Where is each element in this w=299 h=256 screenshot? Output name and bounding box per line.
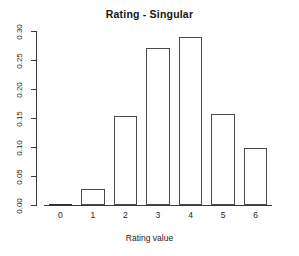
bar	[49, 204, 72, 206]
bar	[211, 114, 234, 205]
x-axis-tick-label: 3	[142, 211, 175, 220]
bar	[244, 148, 267, 205]
x-axis-tick-label: 0	[44, 211, 77, 220]
chart-canvas: Rating - Singular 0.300.250.200.150.100.…	[0, 0, 299, 256]
x-axis-tick-label: 5	[207, 211, 240, 220]
x-axis-title: Rating value	[0, 233, 299, 243]
x-axis-tick-label: 1	[77, 211, 110, 220]
bar	[179, 37, 202, 205]
bar	[146, 48, 169, 205]
x-axis-tick-label: 6	[239, 211, 272, 220]
x-axis-tick-label: 4	[174, 211, 207, 220]
bar	[114, 116, 137, 205]
x-axis-tick-label: 2	[109, 211, 142, 220]
bar	[81, 189, 104, 205]
